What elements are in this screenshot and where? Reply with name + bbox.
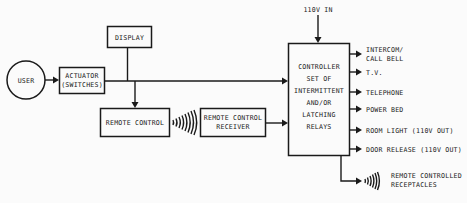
wireless-signal-icon	[365, 172, 379, 190]
display-label: DISPLAY	[115, 34, 144, 42]
remote-receiver-label-2: RECEIVER	[216, 123, 249, 131]
controller-line-3: INTERMITTENT	[294, 87, 344, 95]
user-node: USER	[7, 61, 45, 99]
remote-control-label: REMOTE CONTROL	[106, 119, 164, 127]
output-label: REMOTE CONTROLLED	[391, 172, 462, 180]
output-tv: T.V.	[350, 69, 383, 77]
output-door-release: DOOR RELEASE (110V OUT)	[350, 146, 462, 154]
block-diagram: USER ACTUATOR (SWITCHES) DISPLAY REMOTE …	[0, 0, 467, 203]
output-label: ROOM LIGHT (110V OUT)	[366, 127, 454, 135]
remote-receiver-label-1: REMOTE CONTROL	[204, 114, 262, 122]
output-label: RECEPTACLES	[391, 181, 437, 189]
output-power-bed: POWER BED	[350, 106, 404, 114]
output-telephone: TELEPHONE	[350, 89, 404, 97]
power-in-label: 110V IN	[303, 6, 332, 14]
actuator-label-2: (SWITCHES)	[61, 81, 103, 89]
output-label: INTERCOM/	[366, 46, 404, 54]
output-label: T.V.	[366, 69, 383, 77]
output-label: CALL BELL	[366, 55, 404, 63]
wireless-signal-icon	[173, 110, 197, 135]
arrow-bus-to-remote-control	[132, 81, 139, 108]
arrow-user-to-actuator	[45, 77, 59, 84]
controller-line-4: AND/OR	[306, 99, 331, 107]
output-room-light: ROOM LIGHT (110V OUT)	[350, 127, 454, 135]
remote-control-node: REMOTE CONTROL	[101, 109, 170, 137]
actuator-label-1: ACTUATOR	[65, 72, 98, 80]
output-label: POWER BED	[366, 106, 404, 114]
controller-line-6: RELAYS	[306, 123, 331, 131]
controller-line-5: LATCHING	[302, 111, 335, 119]
controller-node: CONTROLLER SET OF INTERMITTENT AND/OR LA…	[289, 44, 350, 156]
output-label: TELEPHONE	[366, 89, 404, 97]
arrow-bus-to-controller	[105, 78, 289, 85]
actuator-node: ACTUATOR (SWITCHES)	[60, 68, 105, 94]
output-remote-receptacles: REMOTE CONTROLLED RECEPTACLES	[341, 156, 462, 191]
display-node: DISPLAY	[108, 27, 152, 48]
output-label: DOOR RELEASE (110V OUT)	[366, 146, 462, 154]
remote-receiver-node: REMOTE CONTROL RECEIVER	[201, 109, 266, 137]
controller-line-1: CONTROLLER	[298, 63, 340, 71]
output-intercom: INTERCOM/ CALL BELL	[350, 46, 404, 63]
arrow-receiver-to-controller	[266, 120, 289, 127]
controller-line-2: SET OF	[306, 75, 331, 83]
arrow-power-in	[315, 15, 322, 43]
user-label: USER	[18, 77, 35, 85]
